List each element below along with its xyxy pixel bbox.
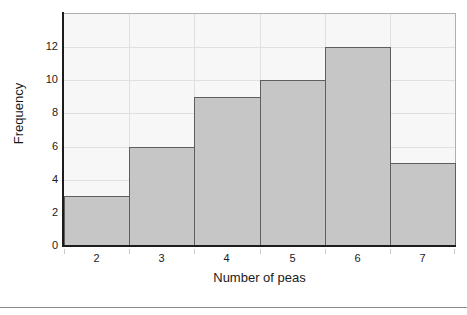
bar — [194, 97, 261, 246]
plot-area — [64, 13, 456, 246]
y-axis-title: Frequency — [11, 64, 26, 164]
histogram-figure: 024681012 234567 Number of peas Frequenc… — [0, 0, 467, 315]
bottom-divider — [0, 307, 467, 308]
x-tick-mark — [454, 249, 455, 254]
x-tick-mark — [129, 249, 130, 254]
bar — [64, 196, 130, 246]
x-tick-label: 4 — [194, 253, 259, 264]
bar — [129, 147, 195, 246]
x-tick-label: 2 — [64, 253, 129, 264]
y-axis-tick-labels: 024681012 — [26, 13, 58, 245]
x-tick-mark — [390, 249, 391, 254]
x-tick-mark — [260, 249, 261, 254]
x-axis-tick-labels: 234567 — [64, 249, 455, 267]
y-tick-label: 8 — [32, 107, 58, 118]
y-tick-label: 4 — [32, 174, 58, 185]
y-tick-label: 10 — [32, 74, 58, 85]
x-axis-spine — [62, 245, 456, 247]
y-tick-label: 2 — [32, 207, 58, 218]
x-tick-mark — [194, 249, 195, 254]
x-axis-title: Number of peas — [64, 270, 455, 285]
bar — [390, 163, 456, 246]
x-tick-label: 7 — [390, 253, 455, 264]
y-tick-label: 0 — [32, 240, 58, 251]
x-tick-mark — [64, 249, 65, 254]
y-axis-spine — [62, 12, 64, 247]
x-tick-label: 6 — [325, 253, 390, 264]
x-tick-mark — [325, 249, 326, 254]
y-tick-label: 12 — [32, 41, 58, 52]
x-tick-label: 3 — [129, 253, 194, 264]
bar — [325, 47, 391, 246]
x-tick-label: 5 — [260, 253, 325, 264]
bar — [260, 80, 326, 246]
y-tick-label: 6 — [32, 141, 58, 152]
